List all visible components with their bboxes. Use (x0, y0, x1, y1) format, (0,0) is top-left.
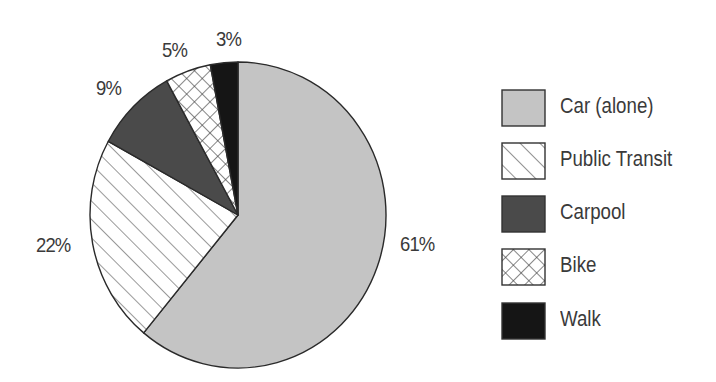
label-walk-percent: 3% (216, 27, 241, 51)
legend-label: Car (alone) (560, 93, 654, 119)
legend-item-car: Car (alone) (502, 90, 712, 126)
legend-label: Carpool (560, 199, 625, 225)
legend-item-carpool: Carpool (502, 196, 712, 232)
legend-item-transit: Public Transit (502, 143, 712, 179)
label-transit-percent: 22% (36, 233, 70, 257)
legend-label: Bike (560, 252, 596, 278)
legend-item-walk: Walk (502, 303, 712, 339)
pie-slices (90, 62, 386, 368)
label-carpool-percent: 9% (96, 76, 121, 100)
label-bike-percent: 5% (162, 38, 187, 62)
legend-label: Public Transit (560, 146, 672, 172)
legend-item-bike: Bike (502, 249, 712, 285)
legend-label: Walk (560, 306, 601, 332)
label-car-percent: 61% (400, 232, 434, 256)
